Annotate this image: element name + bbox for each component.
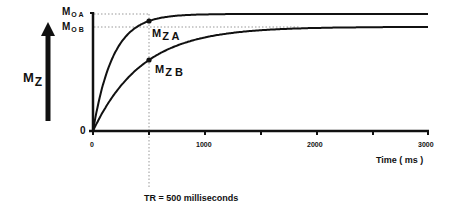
m0a-label: MO A <box>62 6 84 17</box>
mz-axis-label: MZ <box>23 70 42 85</box>
t1-recovery-diagram <box>0 0 456 215</box>
mza-label: MZ A <box>152 27 179 39</box>
mzb-label: MZ B <box>155 63 183 75</box>
marker-mzb <box>146 57 151 62</box>
y-zero-label: 0 <box>80 125 86 136</box>
x-tick-label-1000: 1000 <box>196 141 212 148</box>
x-tick-label-2000: 2000 <box>307 141 323 148</box>
x-tick-label-3000: 3000 <box>418 141 434 148</box>
m0b-label: MO B <box>62 21 84 32</box>
mz-arrow-head-icon <box>41 22 55 36</box>
tr-label: TR = 500 milliseconds <box>144 193 238 203</box>
x-axis-label: Time ( ms ) <box>376 155 423 165</box>
curve-a <box>93 14 428 131</box>
marker-mza <box>146 18 151 23</box>
x-tick-label-0: 0 <box>90 141 94 148</box>
curve-b <box>93 27 428 131</box>
